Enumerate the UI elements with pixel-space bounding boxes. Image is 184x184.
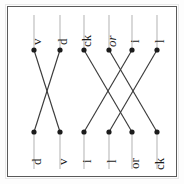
node-right-top-0[interactable] xyxy=(81,47,86,52)
label-right-bottom-1: l xyxy=(105,159,118,163)
label-left-bottom-0: d xyxy=(30,159,43,166)
label-right-bottom-3: ck xyxy=(153,158,166,170)
label-right-top-3: l xyxy=(153,39,166,43)
figure-frame: v d ck or i l d v i l or ck xyxy=(7,6,177,177)
node-right-bottom-1[interactable] xyxy=(106,129,111,134)
label-right-top-1: or xyxy=(105,35,118,47)
diagram-canvas xyxy=(8,7,178,178)
node-right-top-1[interactable] xyxy=(106,47,111,52)
node-left-bottom-1[interactable] xyxy=(57,129,62,134)
label-right-top-2: i xyxy=(128,39,141,43)
node-left-bottom-0[interactable] xyxy=(31,129,36,134)
label-left-top-0: v xyxy=(30,39,43,46)
node-left-top-0[interactable] xyxy=(31,47,36,52)
screenshot-root: v d ck or i l d v i l or ck xyxy=(0,0,184,184)
node-right-bottom-0[interactable] xyxy=(81,129,86,134)
label-left-top-1: d xyxy=(56,39,69,46)
node-left-top-1[interactable] xyxy=(57,47,62,52)
node-right-bottom-2[interactable] xyxy=(129,129,134,134)
label-right-bottom-2: or xyxy=(128,158,141,169)
label-right-top-0: ck xyxy=(80,35,93,47)
label-right-bottom-0: i xyxy=(80,159,93,163)
paper-background: v d ck or i l d v i l or ck xyxy=(0,0,184,184)
node-right-top-3[interactable] xyxy=(154,47,159,52)
node-right-bottom-3[interactable] xyxy=(154,129,159,134)
label-left-bottom-1: v xyxy=(56,159,69,166)
node-right-top-2[interactable] xyxy=(129,47,134,52)
